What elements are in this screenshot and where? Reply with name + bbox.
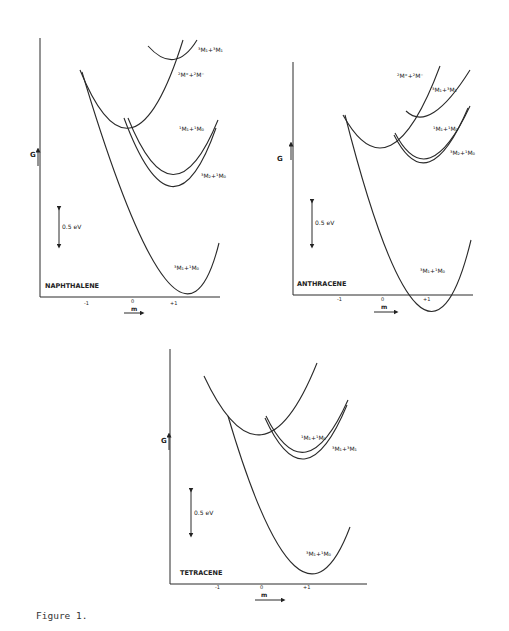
tick-minus1: -1 — [337, 296, 342, 302]
label-1M1-1M0: ¹M₁+¹M₀ — [301, 434, 327, 441]
label-1M1-1M0: ¹M₁+¹M₀ — [433, 125, 459, 132]
curve-1M1-1M0 — [128, 118, 218, 175]
tick-0: 0 — [131, 298, 134, 304]
label-3M1-3M1: ³M₁+³M₁ — [332, 445, 358, 452]
tick-minus1: -1 — [215, 584, 220, 590]
figure-caption: Figure 1. — [36, 610, 87, 621]
tick-plus1: +1 — [423, 296, 430, 302]
label-3M2-1M0: ³M₂+¹M₀ — [450, 149, 476, 156]
curve-3M1-1M0 — [228, 416, 350, 574]
tick-0: 0 — [381, 296, 384, 302]
tick-plus1: +1 — [303, 584, 310, 590]
tick-minus1: -1 — [84, 300, 89, 306]
panel-anthracene: G 0.5 eV ANTHRACENE -1 0 +1 m ²M⁺+²M⁻ ³M… — [277, 62, 476, 312]
label-3M1-3M1: ³M₁+³M₁ — [432, 86, 458, 93]
curve-3M1-1M0 — [82, 72, 219, 294]
x-axis-label: m — [381, 303, 387, 310]
y-axis-label: G — [277, 155, 283, 163]
panel-title: NAPHTHALENE — [45, 282, 99, 290]
x-axis-label: m — [261, 591, 267, 598]
label-3M2-1M0: ³M₂+¹M₀ — [201, 172, 227, 179]
label-1M1-1M0: ¹M₁+¹M₀ — [179, 125, 205, 132]
label-3M1-3M1: ³M₁+³M₁ — [198, 46, 224, 53]
curve-3M1-1M0 — [345, 115, 471, 311]
curve-2Mplus-2Mminus — [204, 363, 317, 435]
label-3M1-1M0: ³M₁+¹M₀ — [420, 267, 446, 274]
scale-bar-label: 0.5 eV — [194, 509, 214, 516]
label-3M1-1M0: ³M₁+¹M₀ — [174, 264, 200, 271]
scale-bar-label: 0.5 eV — [62, 223, 82, 230]
label-2Mplus-2Mminus: ²M⁺+²M⁻ — [178, 71, 205, 78]
tick-plus1: +1 — [170, 300, 177, 306]
panel-title: TETRACENE — [180, 569, 222, 577]
panel-naphthalene: G 0.5 eV NAPHTHALENE -1 0 +1 m ³M₁+³M₁ ²… — [30, 38, 227, 313]
y-axis-label: G — [30, 151, 36, 159]
panel-tetracene: G 0.5 eV TETRACENE -1 0 +1 m ¹M₁+¹M₀ ³M₁… — [161, 349, 367, 600]
y-axis-label: G — [161, 437, 167, 445]
figure: G 0.5 eV NAPHTHALENE -1 0 +1 m ³M₁+³M₁ ²… — [0, 0, 509, 631]
x-axis-label: m — [131, 305, 137, 312]
tick-0: 0 — [260, 584, 263, 590]
label-3M1-1M0: ³M₁+¹M₀ — [306, 550, 332, 557]
curve-3M1-3M1 — [148, 40, 197, 60]
label-2Mplus-2Mminus: ²M⁺+²M⁻ — [397, 72, 424, 79]
scale-bar-label: 0.5 eV — [315, 219, 335, 226]
panel-title: ANTHRACENE — [297, 280, 346, 288]
curve-2Mplus-2Mminus — [343, 66, 440, 148]
